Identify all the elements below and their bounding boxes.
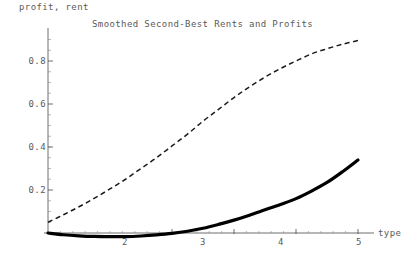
series-line-rent xyxy=(48,41,358,223)
chart-canvas: profit, rent Smoothed Second-Best Rents … xyxy=(0,0,417,265)
axes xyxy=(44,28,374,234)
plot-area xyxy=(0,0,417,265)
y-axis-ticks xyxy=(48,40,53,223)
